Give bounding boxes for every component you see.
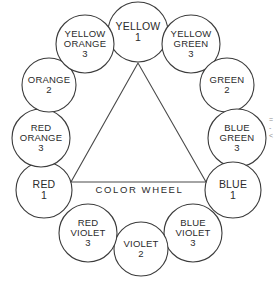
color-node-circle-yellow[interactable] (108, 2, 168, 62)
color-node-circle-red-orange[interactable] (12, 109, 70, 167)
color-wheel-caption: COLOR WHEEL (0, 184, 279, 195)
color-node-circle-red-violet[interactable] (59, 204, 117, 262)
color-node-circle-blue-violet[interactable] (164, 204, 222, 262)
color-node-circles (12, 2, 266, 276)
color-node-circle-violet[interactable] (114, 222, 168, 276)
wheel-vector-layer (0, 0, 279, 283)
primary-color-triangle (71, 63, 206, 182)
scan-edge-marks: = - < (269, 116, 273, 140)
color-wheel-diagram: YELLOW1YELLOWGREEN3GREEN2BLUEGREEN3BLUE1… (0, 0, 279, 283)
color-node-circle-blue-green[interactable] (208, 109, 266, 167)
color-node-circle-yellow-orange[interactable] (56, 15, 114, 73)
color-node-circle-green[interactable] (200, 58, 254, 112)
